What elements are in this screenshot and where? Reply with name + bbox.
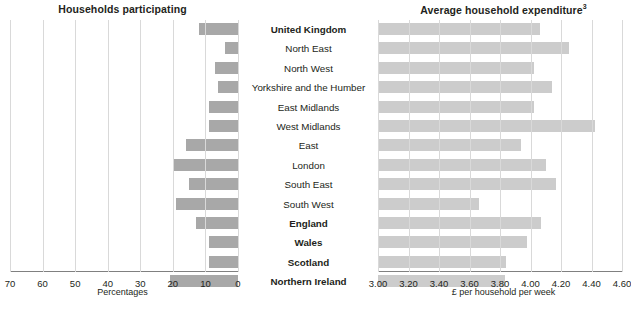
gridline (409, 20, 410, 272)
bar (189, 178, 238, 190)
gridline (592, 20, 593, 272)
left-chart-axis-line (10, 271, 238, 272)
gridline (205, 20, 206, 272)
category-label: South West (243, 195, 374, 214)
category-label: England (243, 214, 374, 233)
gridline (43, 20, 44, 272)
right-panel-title: Average household expenditure3 (376, 3, 631, 16)
gridline (439, 20, 440, 272)
right-chart-axis-label: £ per household per week (376, 287, 631, 297)
gridline (140, 20, 141, 272)
right-chart-plot-area (378, 20, 622, 272)
category-label: Yorkshire and the Humber (243, 78, 374, 97)
gridline (531, 20, 532, 272)
bar (378, 62, 534, 74)
bar (209, 101, 238, 113)
bar-row (10, 136, 238, 155)
bar (378, 120, 595, 132)
bar (196, 217, 238, 229)
bar (378, 23, 540, 35)
category-label: North East (243, 39, 374, 58)
gridline (10, 20, 11, 272)
bar-row (10, 253, 238, 272)
bar (378, 198, 479, 210)
bar (218, 81, 238, 93)
bar (209, 256, 238, 268)
bar-row (10, 233, 238, 252)
right-panel-title-text: Average household expenditure (420, 4, 582, 16)
bar (176, 198, 238, 210)
left-chart-plot-area (10, 20, 238, 272)
bar (186, 139, 238, 151)
bar (378, 217, 541, 229)
bar-row (10, 59, 238, 78)
bar-row (10, 195, 238, 214)
gridline (470, 20, 471, 272)
bar (378, 81, 552, 93)
category-label: United Kingdom (243, 20, 374, 39)
population-pyramid-chart: Households participating Average househo… (0, 0, 631, 311)
category-label: East (243, 136, 374, 155)
gridline (378, 20, 379, 272)
bar-row (10, 98, 238, 117)
bar-row (10, 20, 238, 39)
category-label: Wales (243, 233, 374, 252)
bar (378, 236, 527, 248)
gridline (622, 20, 623, 272)
right-panel-title-footnote-marker: 3 (583, 3, 587, 10)
bar-row (10, 39, 238, 58)
category-label: East Midlands (243, 98, 374, 117)
gridline (238, 20, 239, 272)
bar-row (10, 156, 238, 175)
gridline (173, 20, 174, 272)
category-label: Scotland (243, 253, 374, 272)
gridline (561, 20, 562, 272)
bar-row (10, 78, 238, 97)
category-label: West Midlands (243, 117, 374, 136)
bar (209, 120, 238, 132)
left-chart-bars (10, 20, 238, 272)
bar (378, 42, 569, 54)
category-label: South East (243, 175, 374, 194)
left-panel-title-text: Households participating (58, 3, 186, 15)
bar (378, 256, 506, 268)
bar (225, 42, 238, 54)
bar (215, 62, 238, 74)
gridline (75, 20, 76, 272)
bar (378, 159, 546, 171)
left-chart-axis-label: Percentages (0, 287, 245, 297)
category-label-column: United KingdomNorth EastNorth WestYorksh… (243, 20, 374, 272)
bar-row (10, 117, 238, 136)
bar-row (10, 214, 238, 233)
category-label: North West (243, 59, 374, 78)
bar-row (10, 175, 238, 194)
left-panel-title: Households participating (0, 3, 245, 15)
gridline (500, 20, 501, 272)
bar (378, 101, 534, 113)
bar (209, 236, 238, 248)
right-chart-tick-labels: 3.003.203.403.603.804.004.204.404.60 (0, 274, 631, 288)
gridline (108, 20, 109, 272)
category-label: London (243, 156, 374, 175)
